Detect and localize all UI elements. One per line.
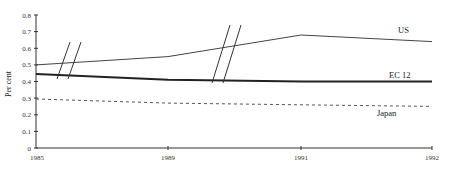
y-tick-label: 0.2 (22, 111, 31, 119)
series-us-line (36, 35, 432, 65)
y-tick-label: 0.8 (22, 12, 31, 20)
y-axis-title: Per cent (4, 70, 13, 97)
y-tick-label: 0.3 (22, 95, 31, 103)
y-tick-label: 0.4 (22, 78, 31, 86)
x-tick-label: 1991 (294, 154, 309, 162)
y-tick-label: 0 (28, 145, 32, 153)
x-tick-label: 1989 (161, 154, 176, 162)
axis-break-marker (57, 42, 81, 79)
y-tick-label: 0.7 (22, 28, 31, 36)
series-japan-line (36, 99, 432, 106)
x-tick-label: 1985 (30, 154, 45, 162)
series-ec12-line (36, 74, 432, 82)
x-tick-label: 1992 (425, 154, 440, 162)
y-tick-label: 0.6 (22, 45, 31, 53)
x-axis: 1985 1989 1991 1992 (30, 146, 440, 162)
y-axis: 0 0.1 0.2 0.3 0.4 0.5 0.6 0.7 0.8 (22, 12, 38, 153)
y-tick-label: 0.5 (22, 61, 31, 69)
axis-break-marker (212, 25, 241, 83)
series-japan-label: Japan (377, 108, 397, 118)
y-tick-label: 0.1 (22, 128, 31, 136)
series-ec12-label: EC 12 (389, 70, 411, 80)
line-chart: Per cent 0 0.1 0.2 0.3 0.4 0.5 0.6 0.7 0… (0, 0, 449, 172)
series-us-label: US (398, 25, 409, 35)
